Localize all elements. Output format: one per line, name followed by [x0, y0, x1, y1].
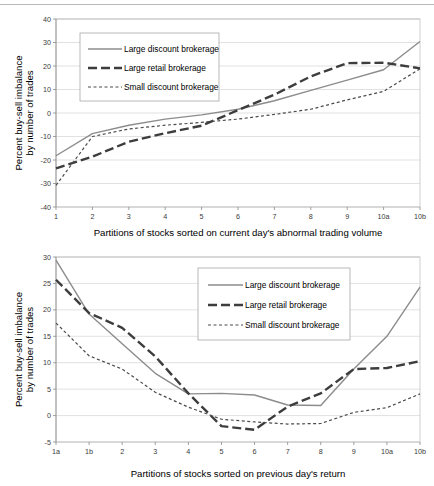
y-tick-label: 0 [47, 411, 51, 420]
chart-bottom: 302520151050-51a1b2345678910a10bPartitio… [0, 246, 434, 486]
x-tick-label: 3 [153, 447, 157, 456]
y-tick-label: 30 [43, 253, 51, 262]
y-axis-title-line2: by number of trades [24, 70, 35, 156]
y-tick-label: -10 [41, 132, 51, 141]
x-tick-label: 10b [414, 212, 426, 221]
x-tick-label: 5 [200, 212, 204, 221]
y-axis-title: Percent buy-sell imbalanceby number of t… [13, 292, 35, 407]
legend-label-large-retail: Large retail brokerage [245, 300, 327, 310]
y-tick-label: 20 [43, 305, 51, 314]
legend-label-large-discount: Large discount brokerage [245, 280, 340, 290]
x-tick-label: 1 [54, 212, 58, 221]
y-axis-title: Percent buy-sell imbalanceby number of t… [13, 55, 35, 170]
y-tick-label: 10 [43, 358, 51, 367]
figure-page: 403020100-10-20-30-4012345678910a10bPart… [0, 0, 434, 486]
y-tick-label: 40 [43, 15, 51, 24]
y-tick-label: 30 [43, 38, 51, 47]
chart-top: 403020100-10-20-30-4012345678910a10bPart… [0, 8, 434, 242]
x-tick-label: 1b [85, 447, 93, 456]
y-axis-title-line1: Percent buy-sell imbalance [13, 55, 24, 170]
y-tick-label: -30 [41, 179, 51, 188]
x-tick-label: 2 [90, 212, 94, 221]
y-tick-label: 0 [47, 109, 51, 118]
x-tick-label: 10a [381, 447, 393, 456]
legend-label-small-discount: Small discount brokerage [124, 82, 219, 92]
y-tick-label: 10 [43, 85, 51, 94]
legend-label-large-retail: Large retail brokerage [124, 63, 206, 73]
y-axis-title-line1: Percent buy-sell imbalance [13, 292, 24, 407]
legend: Large discount brokerageLarge retail bro… [198, 268, 350, 340]
x-tick-label: 4 [163, 212, 167, 221]
x-tick-label: 6 [236, 212, 240, 221]
y-tick-label: 5 [47, 385, 51, 394]
y-tick-label: 20 [43, 62, 51, 71]
y-tick-label: -40 [41, 203, 51, 212]
x-tick-label: 10b [414, 447, 426, 456]
y-tick-label: 15 [43, 332, 51, 341]
y-tick-label: -5 [45, 438, 51, 447]
legend-label-small-discount: Small discount brokerage [245, 320, 340, 330]
x-tick-label: 2 [120, 447, 124, 456]
x-tick-label: 1a [52, 447, 60, 456]
x-axis-title: Partitions of stocks sorted on previous … [131, 468, 346, 479]
x-tick-label: 4 [186, 447, 190, 456]
x-tick-label: 8 [319, 447, 323, 456]
x-tick-label: 10a [378, 212, 390, 221]
x-tick-label: 7 [272, 212, 276, 221]
legend: Large discount brokerageLarge retail bro… [80, 33, 219, 101]
y-axis-title-line2: by number of trades [24, 307, 35, 393]
x-tick-label: 8 [309, 212, 313, 221]
y-tick-label: -20 [41, 156, 51, 165]
x-tick-label: 9 [345, 212, 349, 221]
page-top-rule [0, 4, 434, 5]
x-tick-label: 7 [286, 447, 290, 456]
x-axis-title: Partitions of stocks sorted on current d… [94, 227, 383, 238]
x-tick-label: 6 [253, 447, 257, 456]
legend-label-large-discount: Large discount brokerage [124, 44, 219, 54]
x-tick-label: 9 [352, 447, 356, 456]
x-tick-label: 3 [127, 212, 131, 221]
x-tick-label: 5 [219, 447, 223, 456]
y-tick-label: 25 [43, 279, 51, 288]
